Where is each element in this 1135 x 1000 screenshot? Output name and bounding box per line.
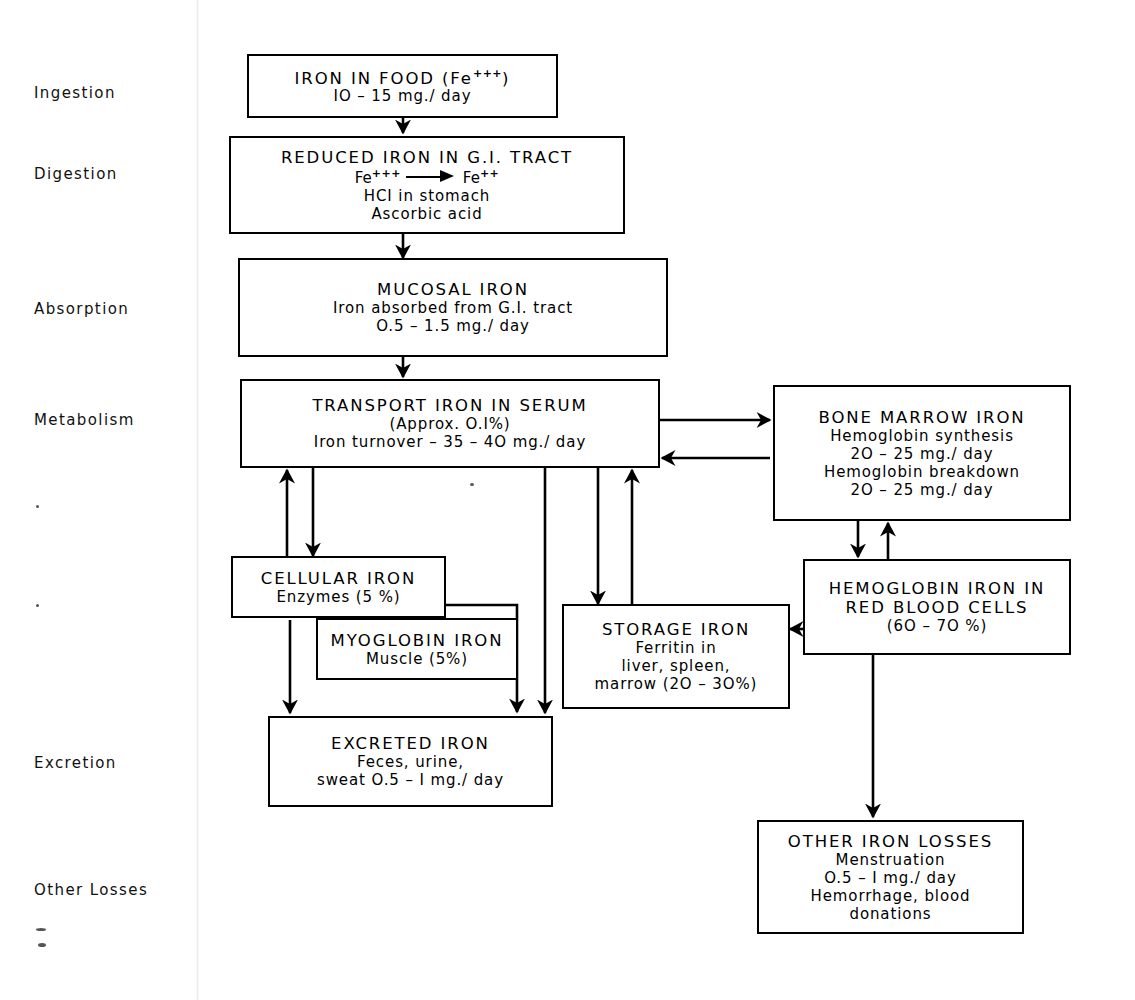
fe3-label: Fe+++ xyxy=(355,167,401,187)
transport-iron-heading: TRANSPORT IRON IN SERUM xyxy=(312,396,587,415)
node-reduced-iron: REDUCED IRON IN G.I. TRACT Fe+++ Fe++ HC… xyxy=(229,136,625,234)
hgb-rbc-line2: RED BLOOD CELLS xyxy=(846,598,1029,617)
node-other-iron-losses: OTHER IRON LOSSES Menstruation O.5 – I m… xyxy=(757,820,1024,934)
node-excreted-iron: EXCRETED IRON Feces, urine, sweat O.5 – … xyxy=(268,716,553,807)
mucosal-iron-heading: MUCOSAL IRON xyxy=(377,280,529,299)
flowchart-page: Ingestion Digestion Absorption Metabolis… xyxy=(0,0,1135,1000)
storage-iron-heading: STORAGE IRON xyxy=(602,620,750,639)
myoglobin-iron-muscle: Muscle (5%) xyxy=(366,650,468,668)
node-transport-iron: TRANSPORT IRON IN SERUM (Approx. O.I%) I… xyxy=(240,379,660,468)
reduced-iron-ascorbic: Ascorbic acid xyxy=(371,205,482,223)
bone-marrow-heading: BONE MARROW IRON xyxy=(818,408,1025,427)
cellular-iron-heading: CELLULAR IRON xyxy=(261,569,417,588)
scan-speck xyxy=(36,505,39,508)
stage-label-metabolism: Metabolism xyxy=(34,411,135,429)
iron-in-food-heading: IRON IN FOOD (Fe+++) xyxy=(295,67,511,88)
fe2-label: Fe++ xyxy=(463,167,499,187)
scan-speck xyxy=(36,928,46,931)
other-losses-dose: O.5 – I mg./ day xyxy=(824,869,956,887)
storage-iron-marrow-pct: marrow (2O – 3O%) xyxy=(595,675,758,693)
bone-marrow-breakdown-dose: 2O – 25 mg./ day xyxy=(851,481,994,499)
reduced-iron-hcl: HCI in stomach xyxy=(364,187,490,205)
other-losses-hemorrhage: Hemorrhage, blood xyxy=(811,887,971,905)
other-losses-donations: donations xyxy=(849,905,931,923)
stage-label-absorption: Absorption xyxy=(34,300,129,318)
hgb-rbc-heading: HEMOGLOBIN IRON IN xyxy=(829,579,1046,598)
mucosal-iron-desc: Iron absorbed from G.I. tract xyxy=(333,299,573,317)
excreted-iron-sweat: sweat O.5 – I mg./ day xyxy=(317,771,504,789)
scan-speck xyxy=(470,483,474,486)
node-myoglobin-iron: MYOGLOBIN IRON Muscle (5%) xyxy=(316,618,518,680)
transport-iron-approx: (Approx. O.I%) xyxy=(389,415,510,433)
storage-iron-organs: liver, spleen, xyxy=(622,657,731,675)
scan-speck xyxy=(36,604,39,607)
node-cellular-iron: CELLULAR IRON Enzymes (5 %) xyxy=(231,556,446,618)
reduced-iron-reaction: Fe+++ Fe++ xyxy=(355,167,500,187)
node-bone-marrow-iron: BONE MARROW IRON Hemoglobin synthesis 2O… xyxy=(773,385,1071,521)
stage-label-digestion: Digestion xyxy=(34,165,118,183)
reduced-iron-heading: REDUCED IRON IN G.I. TRACT xyxy=(281,148,573,167)
mucosal-iron-dose: O.5 – 1.5 mg./ day xyxy=(376,317,530,335)
transport-iron-turnover: Iron turnover – 35 – 4O mg./ day xyxy=(314,433,586,451)
stage-label-excretion: Excretion xyxy=(34,754,117,772)
stage-label-ingestion: Ingestion xyxy=(34,84,116,102)
fe3-superscript: +++ xyxy=(473,67,502,80)
stage-label-other-losses: Other Losses xyxy=(34,881,148,899)
bone-marrow-synthesis-dose: 2O – 25 mg./ day xyxy=(851,445,994,463)
hgb-rbc-pct: (6O – 7O %) xyxy=(887,617,987,635)
node-mucosal-iron: MUCOSAL IRON Iron absorbed from G.I. tra… xyxy=(238,258,668,357)
excreted-iron-heading: EXCRETED IRON xyxy=(331,734,490,753)
other-losses-heading: OTHER IRON LOSSES xyxy=(788,832,993,851)
iron-in-food-dose: IO – 15 mg./ day xyxy=(334,87,472,105)
myoglobin-iron-heading: MYOGLOBIN IRON xyxy=(331,631,504,650)
bone-marrow-breakdown: Hemoglobin breakdown xyxy=(824,463,1020,481)
cellular-iron-enzymes: Enzymes (5 %) xyxy=(276,588,400,606)
node-iron-in-food: IRON IN FOOD (Fe+++) IO – 15 mg./ day xyxy=(247,54,558,118)
node-hemoglobin-iron-rbc: HEMOGLOBIN IRON IN RED BLOOD CELLS (6O –… xyxy=(803,559,1071,655)
scan-speck xyxy=(38,943,46,947)
excreted-iron-routes: Feces, urine, xyxy=(357,753,464,771)
reaction-arrow-icon xyxy=(406,172,458,181)
other-losses-menstruation: Menstruation xyxy=(836,851,946,869)
bone-marrow-synthesis: Hemoglobin synthesis xyxy=(830,427,1014,445)
storage-iron-ferritin: Ferritin in xyxy=(635,639,716,657)
node-storage-iron: STORAGE IRON Ferritin in liver, spleen, … xyxy=(562,604,790,709)
